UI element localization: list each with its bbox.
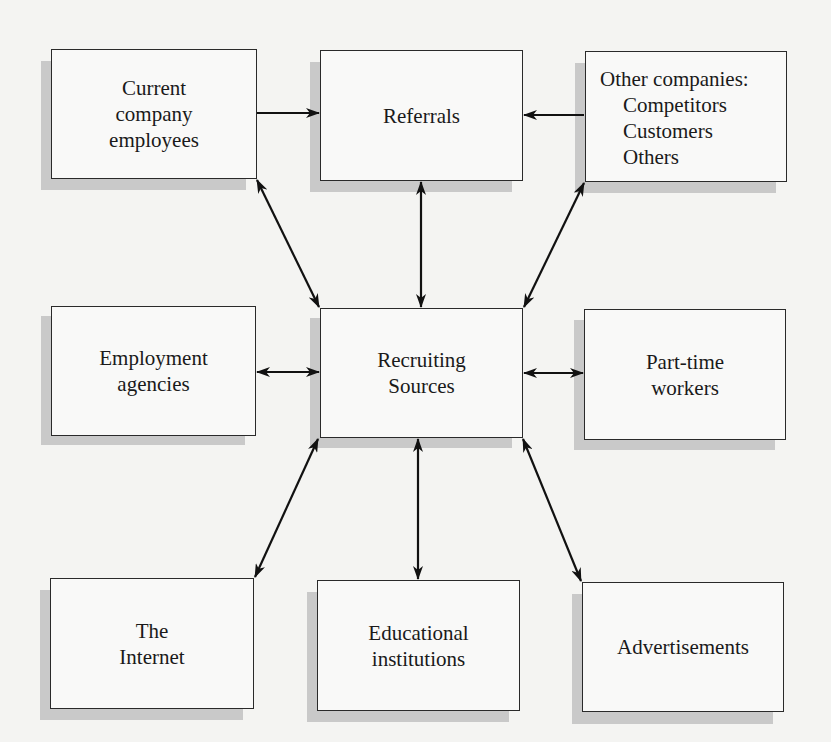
label-line: Internet xyxy=(119,644,184,670)
label-line: Referrals xyxy=(383,103,460,129)
label-line: employees xyxy=(109,127,199,153)
arrow-advertisements-recruiting xyxy=(523,439,581,581)
node-other-companies: Other companies: Competitors Customers O… xyxy=(585,51,787,182)
label-line: agencies xyxy=(99,371,208,397)
node-label: The Internet xyxy=(119,618,184,670)
node-label: Current company employees xyxy=(109,75,199,153)
node-part-time-workers: Part-time workers xyxy=(584,309,786,440)
label-line: Employment xyxy=(99,345,208,371)
label-line: workers xyxy=(646,375,724,401)
label-line: The xyxy=(119,618,184,644)
node-current-company-employees: Current company employees xyxy=(51,49,257,179)
node-label: Part-time workers xyxy=(646,349,724,401)
node-label: Advertisements xyxy=(617,634,749,660)
node-label: Educational institutions xyxy=(368,620,468,672)
node-label: Other companies: Competitors Customers O… xyxy=(586,52,749,170)
node-the-internet: The Internet xyxy=(50,578,254,709)
node-referrals: Referrals xyxy=(320,50,523,181)
node-educational-institutions: Educational institutions xyxy=(317,580,520,711)
label-item: Customers xyxy=(586,118,749,144)
label-line: Sources xyxy=(377,373,466,399)
label-line: Recruiting xyxy=(377,347,466,373)
node-label: Employment agencies xyxy=(99,345,208,397)
node-advertisements: Advertisements xyxy=(582,582,784,712)
node-label: Recruiting Sources xyxy=(377,347,466,399)
arrow-other-companies-recruiting xyxy=(524,183,584,307)
label-line: institutions xyxy=(368,646,468,672)
label-line: company xyxy=(109,101,199,127)
node-label: Referrals xyxy=(383,103,460,129)
label-item: Competitors xyxy=(586,92,749,118)
label-item: Others xyxy=(586,144,749,170)
label-title: Other companies: xyxy=(586,52,749,92)
node-recruiting-sources: Recruiting Sources xyxy=(320,308,523,438)
node-employment-agencies: Employment agencies xyxy=(51,306,256,436)
label-line: Part-time xyxy=(646,349,724,375)
label-line: Educational xyxy=(368,620,468,646)
arrow-current-employees-recruiting xyxy=(257,180,319,307)
label-line: Current xyxy=(109,75,199,101)
label-line: Advertisements xyxy=(617,634,749,660)
arrow-internet-recruiting xyxy=(255,439,318,577)
